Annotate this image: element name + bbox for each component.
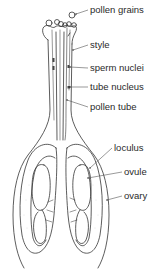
leader-sperm-nuclei bbox=[70, 67, 88, 68]
style-inner-right bbox=[63, 32, 64, 140]
left-loculus bbox=[20, 144, 57, 253]
leader-loculus bbox=[90, 148, 112, 168]
label-loculus: loculus bbox=[114, 143, 144, 153]
leader-pollen-tube bbox=[67, 100, 88, 107]
label-pollen-tube: pollen tube bbox=[90, 102, 136, 112]
label-ovary: ovary bbox=[124, 191, 147, 201]
pistil-diagram: pollen grains style sperm nuclei tube nu… bbox=[0, 0, 155, 271]
label-ovule: ovule bbox=[124, 167, 147, 177]
leader-ovule bbox=[88, 172, 122, 178]
leader-pollen-grains bbox=[76, 10, 88, 14]
label-tube-nucleus: tube nucleus bbox=[90, 82, 144, 92]
pollen-grain bbox=[46, 20, 52, 26]
label-sperm-nuclei: sperm nuclei bbox=[90, 63, 144, 73]
label-style: style bbox=[90, 40, 110, 50]
leader-ovary bbox=[107, 196, 122, 200]
label-pollen-grains: pollen grains bbox=[90, 5, 144, 15]
sperm-nucleus bbox=[53, 58, 55, 62]
pollen-tube bbox=[65, 28, 67, 140]
leader-style bbox=[73, 45, 88, 50]
style-inner-left bbox=[56, 32, 57, 140]
pistil-drawing bbox=[0, 0, 155, 271]
